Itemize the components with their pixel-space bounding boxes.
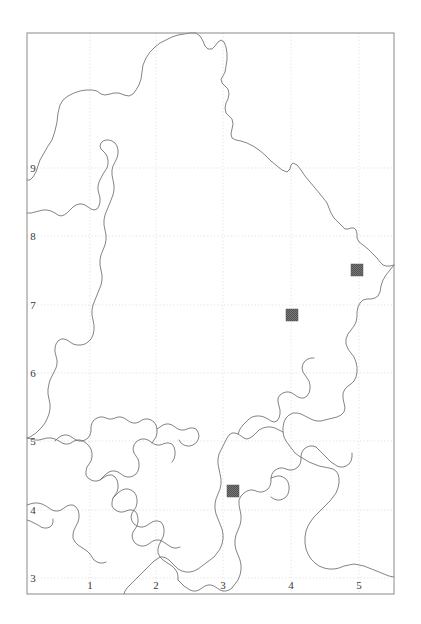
x-tick-label: 1 <box>87 579 93 591</box>
x-tick-label: 3 <box>220 579 226 591</box>
y-tick-label: 8 <box>30 230 36 242</box>
x-tick-label: 4 <box>288 579 294 591</box>
marker-record-1[interactable] <box>351 264 363 276</box>
y-tick-label: 7 <box>30 299 36 311</box>
y-tick-label: 9 <box>30 162 36 174</box>
x-tick-label: 2 <box>153 579 159 591</box>
marker-record-2[interactable] <box>286 309 298 321</box>
marker-record-3[interactable] <box>227 485 239 497</box>
y-tick-label: 3 <box>30 572 36 584</box>
x-tick-label: 5 <box>356 579 362 591</box>
distribution-map-figure: 9 8 7 6 5 4 3 1 2 3 4 5 <box>0 0 421 624</box>
y-tick-label: 4 <box>30 504 36 516</box>
map-canvas: 9 8 7 6 5 4 3 1 2 3 4 5 <box>0 0 421 624</box>
y-tick-label: 5 <box>30 435 36 447</box>
y-tick-label: 6 <box>30 367 36 379</box>
